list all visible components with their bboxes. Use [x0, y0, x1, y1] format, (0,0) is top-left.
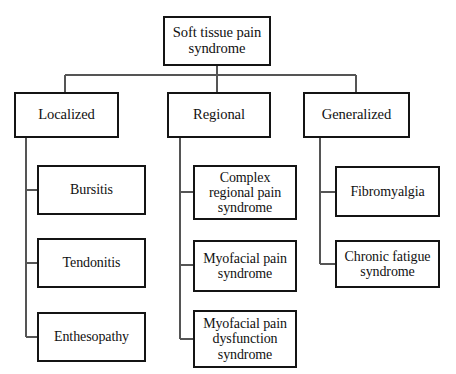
node-localized-label: Localized — [35, 107, 98, 123]
node-myofacial-pain-dysfunction-syndrome-label: Myofacial pain dysfunction syndrome — [195, 316, 295, 361]
hierarchy-diagram: Soft tissue pain syndrome Localized Regi… — [0, 0, 456, 374]
node-myofacial-pain-dysfunction-syndrome[interactable]: Myofacial pain dysfunction syndrome — [193, 310, 297, 368]
node-root-label: Soft tissue pain syndrome — [165, 25, 269, 57]
node-enthesopathy-label: Enthesopathy — [51, 329, 132, 344]
node-root[interactable]: Soft tissue pain syndrome — [163, 16, 271, 66]
node-chronic-fatigue-syndrome[interactable]: Chronic fatigue syndrome — [335, 240, 440, 288]
node-bursitis-label: Bursitis — [67, 182, 116, 197]
node-regional-label: Regional — [190, 107, 248, 123]
node-regional[interactable]: Regional — [167, 92, 271, 138]
node-complex-regional-pain-syndrome[interactable]: Complex regional pain syndrome — [193, 165, 297, 220]
node-localized[interactable]: Localized — [14, 92, 119, 138]
node-generalized-label: Generalized — [319, 107, 394, 123]
node-enthesopathy[interactable]: Enthesopathy — [37, 312, 146, 362]
node-myofacial-pain-syndrome-label: Myofacial pain syndrome — [195, 251, 295, 281]
node-myofacial-pain-syndrome[interactable]: Myofacial pain syndrome — [193, 240, 297, 292]
node-fibromyalgia[interactable]: Fibromyalgia — [335, 166, 440, 217]
node-tendonitis[interactable]: Tendonitis — [37, 238, 146, 288]
node-bursitis[interactable]: Bursitis — [37, 165, 146, 215]
node-generalized[interactable]: Generalized — [303, 92, 410, 138]
node-tendonitis-label: Tendonitis — [60, 255, 124, 270]
node-complex-regional-pain-syndrome-label: Complex regional pain syndrome — [195, 170, 295, 215]
node-fibromyalgia-label: Fibromyalgia — [347, 184, 427, 199]
node-chronic-fatigue-syndrome-label: Chronic fatigue syndrome — [337, 249, 438, 279]
